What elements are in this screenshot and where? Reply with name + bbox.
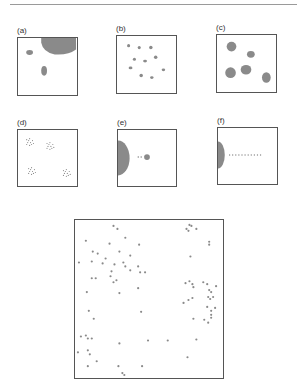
panel-label: (b) [116, 25, 126, 33]
cluster-point [33, 143, 34, 144]
cluster-point [30, 169, 31, 170]
scatter-point [87, 337, 89, 339]
cluster-point [67, 173, 68, 174]
scatter-point [167, 339, 169, 341]
cluster-point [68, 175, 69, 176]
cluster-point [47, 146, 48, 147]
ellipse-shape [150, 76, 153, 79]
cluster-point [32, 140, 33, 141]
ellipse-shape [133, 58, 136, 61]
scatter-point [121, 372, 123, 374]
scatter-point [87, 365, 89, 367]
row-point [238, 154, 239, 155]
scatter-point [91, 277, 93, 279]
scatter-point [123, 374, 125, 376]
ellipse-shape [154, 56, 157, 59]
scatter-point [210, 314, 212, 316]
ellipse-shape [139, 74, 142, 77]
ellipse-shape [118, 141, 130, 176]
cluster-point [51, 148, 52, 149]
row-point [235, 154, 236, 155]
scatter-point [77, 351, 79, 353]
scatter-point [117, 365, 119, 367]
row-point [232, 154, 233, 155]
scatter-point [215, 285, 217, 287]
cluster-point [33, 173, 34, 174]
scatter-point [187, 230, 189, 232]
scatter-point [88, 310, 90, 312]
cluster-point [28, 168, 29, 169]
cluster-point [53, 147, 54, 148]
scatter-point [91, 337, 93, 339]
ellipse-shape [247, 51, 255, 58]
scatter-point [80, 335, 82, 337]
cluster-point [63, 175, 64, 176]
scatter-point [203, 319, 205, 321]
cluster-point [34, 169, 35, 170]
scatter-point [112, 225, 114, 227]
scatter-point [110, 270, 112, 272]
scatter-point [137, 265, 139, 267]
top-rule [10, 4, 297, 5]
scatter-point [115, 279, 117, 281]
scatter-point [210, 310, 212, 312]
cluster-point [46, 148, 47, 149]
scatter-point [113, 263, 115, 265]
scatter-point [195, 338, 197, 340]
scatter-point [147, 339, 149, 341]
ellipse-shape [140, 156, 142, 158]
panel-e [117, 129, 177, 187]
cluster-point [48, 144, 49, 145]
ellipse-shape [129, 67, 133, 70]
scatter-point [187, 299, 189, 301]
cluster-point [31, 174, 32, 175]
cluster-point [35, 172, 36, 173]
scatter-point [89, 353, 91, 355]
row-point [260, 154, 261, 155]
scatter-point [188, 280, 190, 282]
scatter-point [188, 224, 190, 226]
scatter-point [85, 334, 87, 336]
scatter-point [124, 237, 126, 239]
scatter-point [207, 322, 209, 324]
cluster-point [52, 144, 53, 145]
panel-b [116, 35, 177, 94]
scatter-point [190, 225, 192, 227]
row-point [241, 154, 242, 155]
scatter-point [86, 291, 88, 293]
row-point [254, 154, 255, 155]
scatter-point [118, 292, 120, 294]
scatter-point [212, 296, 214, 298]
cluster-point [29, 145, 30, 146]
scatter-point [186, 356, 188, 358]
scatter-point [137, 287, 139, 289]
scatter-point [191, 297, 193, 299]
cluster-point [28, 140, 29, 141]
cluster-point [66, 176, 67, 177]
scatter-point [116, 228, 118, 230]
scatter-point [129, 254, 131, 256]
scatter-point [108, 243, 110, 245]
scatter-point [109, 275, 111, 277]
cluster-point [30, 142, 31, 143]
scatter-point [184, 282, 186, 284]
scatter-point [85, 240, 87, 242]
scatter-point [192, 318, 194, 320]
panel-label: (c) [216, 24, 225, 32]
panel-c [216, 34, 277, 93]
scatter-point [97, 252, 99, 254]
scatter-point [208, 241, 210, 243]
cluster-point [31, 144, 32, 145]
row-point [244, 154, 245, 155]
ellipse-shape [138, 156, 140, 158]
scatter-point [208, 244, 210, 246]
scatter-point [92, 251, 94, 253]
scatter-point [144, 271, 146, 273]
scatter-point [96, 360, 98, 362]
cluster-point [46, 143, 47, 144]
panel-label: (a) [17, 27, 27, 35]
cluster-point [49, 142, 50, 143]
panel-f [217, 127, 278, 185]
ellipse-shape [26, 50, 33, 55]
main-scatter-panel [74, 219, 224, 379]
